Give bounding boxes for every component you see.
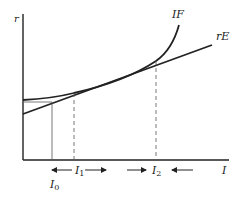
rE-label: rE (216, 30, 229, 43)
I1-subscript: 1 (79, 169, 84, 178)
IF-label: IF (171, 8, 184, 21)
diagram-canvas: r I IF rE I1 I2 I0 (0, 0, 241, 198)
I0-subscript: 0 (54, 183, 59, 192)
I2-label: I2 (151, 164, 161, 178)
I0-label: I0 (49, 178, 59, 192)
x-axis-label: I (221, 164, 227, 177)
I1-label: I1 (74, 164, 84, 178)
y-axis-label: r (14, 13, 20, 24)
I2-subscript: 2 (156, 169, 161, 178)
